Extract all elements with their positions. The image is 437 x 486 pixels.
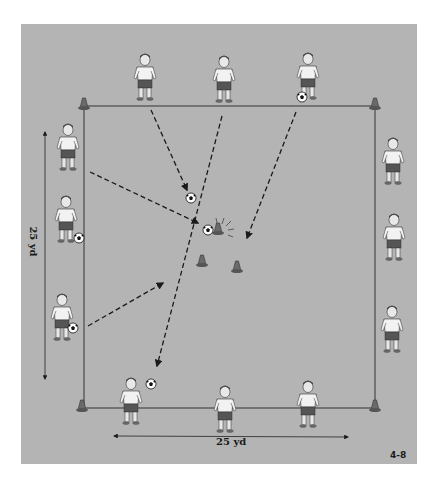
soccer-ball-icon xyxy=(146,379,156,389)
player-icon xyxy=(382,138,404,185)
player-icon xyxy=(134,54,156,101)
field-boundary xyxy=(84,106,375,408)
soccer-ball-icon xyxy=(203,225,213,235)
target-cone-icon xyxy=(212,223,224,235)
figure-number: 4-8 xyxy=(390,450,406,460)
cone-icon xyxy=(231,261,243,273)
player-icon xyxy=(214,386,236,433)
player-icon xyxy=(55,196,77,243)
cone-icon xyxy=(76,400,88,412)
center-cones xyxy=(196,218,243,273)
drill-diagram xyxy=(0,0,437,486)
players-top xyxy=(134,53,319,103)
cone-icon xyxy=(196,255,208,267)
soccer-ball-icon xyxy=(297,92,307,102)
height-dimension-label: 25 yd xyxy=(28,226,39,256)
player-icon xyxy=(213,56,235,103)
pass-arrow xyxy=(88,283,163,326)
pass-arrow xyxy=(157,116,222,366)
player-icon xyxy=(51,294,73,341)
soccer-ball-icon xyxy=(186,193,196,203)
players-left xyxy=(51,124,84,341)
soccer-ball-icon xyxy=(74,233,84,243)
balls-in-play xyxy=(186,193,213,235)
cone-icon xyxy=(78,98,90,110)
soccer-ball-icon xyxy=(68,323,78,333)
corner-cones xyxy=(76,98,381,412)
cone-icon xyxy=(369,98,381,110)
cone-icon xyxy=(369,400,381,412)
player-icon xyxy=(297,381,319,428)
players-right xyxy=(381,138,405,353)
pass-arrow xyxy=(247,112,296,238)
pass-arrows xyxy=(88,110,296,366)
width-dimension-label: 25 yd xyxy=(216,436,246,447)
player-icon xyxy=(57,124,79,171)
player-icon xyxy=(383,214,405,261)
player-icon xyxy=(381,306,403,353)
players-bottom xyxy=(120,378,319,433)
pass-arrow xyxy=(151,110,187,190)
player-icon xyxy=(120,378,142,425)
